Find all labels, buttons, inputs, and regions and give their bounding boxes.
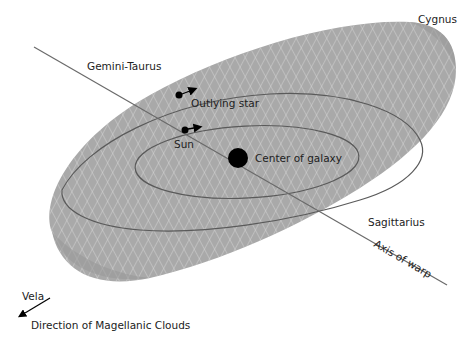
label-sun: Sun xyxy=(174,138,194,150)
label-axis-of-warp: Axis of warp xyxy=(372,237,434,280)
center-of-galaxy-marker xyxy=(228,148,248,168)
label-direction-magellanic: Direction of Magellanic Clouds xyxy=(31,319,190,331)
galactic-warp-diagram: Cygnus Gemini-Taurus Outlying star Sun C… xyxy=(0,0,472,339)
label-center-of-galaxy: Center of galaxy xyxy=(255,152,342,164)
galactic-disc xyxy=(0,0,472,339)
label-cygnus: Cygnus xyxy=(418,13,457,25)
label-sagittarius: Sagittarius xyxy=(368,216,425,228)
label-vela: Vela xyxy=(22,290,44,302)
label-gemini-taurus: Gemini-Taurus xyxy=(87,60,161,72)
label-outlying-star: Outlying star xyxy=(191,97,260,109)
